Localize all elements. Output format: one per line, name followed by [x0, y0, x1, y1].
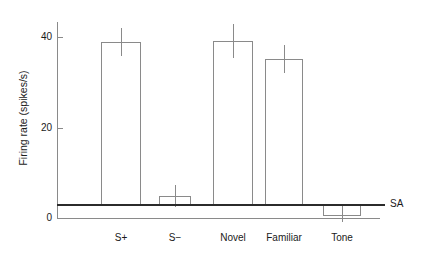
bar-novel	[213, 41, 253, 205]
error-bar-s-plus	[121, 28, 122, 56]
y-tick-label-0: 0	[22, 213, 52, 223]
error-bar-tone	[342, 205, 343, 222]
category-label-tone: Tone	[318, 232, 366, 243]
y-axis-line	[57, 22, 58, 219]
spontaneous-activity-baseline	[57, 204, 385, 206]
category-label-familiar: Familiar	[258, 232, 310, 243]
y-tick-mark-20	[58, 128, 63, 129]
spontaneous-activity-label: SA	[390, 198, 403, 209]
error-bar-novel	[233, 24, 234, 58]
bar-familiar	[265, 59, 303, 205]
error-bar-familiar	[284, 45, 285, 73]
y-tick-mark-40	[58, 37, 63, 38]
bar-chart-figure: 40 20 0 Firing rate (spikes/s) SA S+ S− …	[0, 0, 426, 260]
x-axis-line	[57, 218, 380, 219]
y-tick-label-40: 40	[22, 32, 52, 42]
y-axis-title: Firing rate (spikes/s)	[17, 48, 29, 188]
bar-s-plus	[101, 42, 141, 205]
category-label-s-minus: S−	[159, 232, 191, 243]
category-label-s-plus: S+	[101, 232, 141, 243]
category-label-novel: Novel	[208, 232, 258, 243]
